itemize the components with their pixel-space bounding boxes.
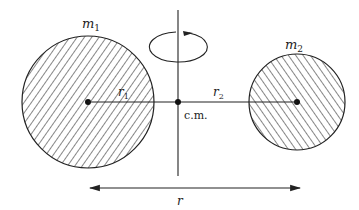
two-body-diagram: m1 m2 r1 r2 c.m. r bbox=[0, 0, 359, 210]
mass-2-label: m2 bbox=[285, 37, 303, 54]
separation-label: r bbox=[177, 194, 184, 208]
diagram-canvas: m1 m2 r1 r2 c.m. r bbox=[0, 0, 359, 210]
center-of-mass-label: c.m. bbox=[184, 109, 208, 122]
mass-1-label: m1 bbox=[82, 16, 100, 33]
radius-2-label: r2 bbox=[213, 85, 224, 101]
center-of-mass-dot bbox=[175, 99, 181, 105]
